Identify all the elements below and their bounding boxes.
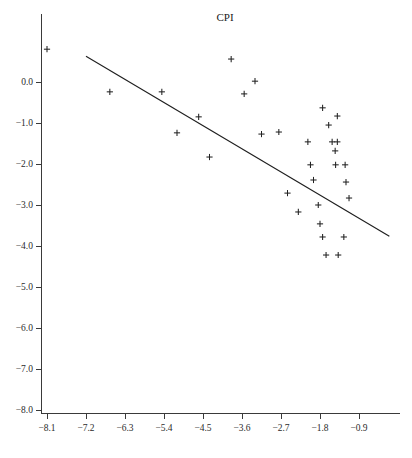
cpi-scatter-plot: CPI 0.0−1.0−2.0−3.0−4.0−5.0−6.0−7.0−8.0 … bbox=[0, 0, 412, 458]
x-tick-label: −0.9 bbox=[350, 423, 367, 433]
data-point-marker bbox=[228, 56, 234, 62]
data-point-marker bbox=[346, 195, 352, 201]
data-point-marker bbox=[206, 154, 212, 160]
page-title: CPI bbox=[216, 11, 233, 23]
data-point-marker bbox=[295, 209, 301, 215]
axes bbox=[41, 14, 400, 414]
x-tick-label: −4.5 bbox=[194, 423, 211, 433]
regression-line bbox=[86, 56, 389, 236]
data-point-marker bbox=[342, 162, 348, 168]
data-point-marker bbox=[334, 139, 340, 145]
data-point-marker bbox=[332, 148, 338, 154]
data-point-marker bbox=[241, 91, 247, 97]
y-tick-label: −8.0 bbox=[16, 405, 33, 415]
y-tick-label: −7.0 bbox=[16, 364, 33, 374]
data-point-marker bbox=[310, 177, 316, 183]
data-point-marker bbox=[44, 46, 50, 52]
data-point-marker bbox=[320, 234, 326, 240]
data-point-marker bbox=[317, 221, 323, 227]
data-point-marker bbox=[258, 131, 264, 137]
data-point-marker bbox=[315, 202, 321, 208]
x-tick-label: −5.4 bbox=[155, 423, 172, 433]
data-point-marker bbox=[326, 122, 332, 128]
x-tick-label: −7.2 bbox=[77, 423, 94, 433]
x-tick-label: −6.3 bbox=[116, 423, 133, 433]
data-point-marker bbox=[107, 89, 113, 95]
x-axis-ticks: −8.1−7.2−6.3−5.4−4.5−3.6−2.7−1.8−0.9 bbox=[38, 414, 367, 433]
data-point-marker bbox=[343, 179, 349, 185]
data-point-marker bbox=[196, 114, 202, 120]
data-point-marker bbox=[159, 89, 165, 95]
data-point-marker bbox=[335, 252, 341, 258]
x-tick-label: −8.1 bbox=[38, 423, 55, 433]
data-point-marker bbox=[334, 113, 340, 119]
data-point-marker bbox=[323, 252, 329, 258]
data-point-marker bbox=[276, 129, 282, 135]
y-tick-label: −4.0 bbox=[16, 241, 33, 251]
y-tick-label: −1.0 bbox=[16, 118, 33, 128]
y-tick-label: 0.0 bbox=[21, 77, 33, 87]
y-tick-label: −5.0 bbox=[16, 282, 33, 292]
chart-container: CPI 0.0−1.0−2.0−3.0−4.0−5.0−6.0−7.0−8.0 … bbox=[0, 0, 412, 458]
data-point-marker bbox=[284, 190, 290, 196]
x-tick-label: −2.7 bbox=[272, 423, 289, 433]
y-axis-ticks: 0.0−1.0−2.0−3.0−4.0−5.0−6.0−7.0−8.0 bbox=[16, 77, 41, 415]
data-point-marker bbox=[307, 162, 313, 168]
data-points bbox=[44, 46, 352, 258]
y-tick-label: −3.0 bbox=[16, 200, 33, 210]
y-tick-label: −2.0 bbox=[16, 159, 33, 169]
x-tick-label: −3.6 bbox=[233, 423, 250, 433]
data-point-marker bbox=[333, 162, 339, 168]
data-point-marker bbox=[341, 234, 347, 240]
y-tick-label: −6.0 bbox=[16, 323, 33, 333]
data-point-marker bbox=[174, 130, 180, 136]
data-point-marker bbox=[320, 105, 326, 111]
data-point-marker bbox=[305, 139, 311, 145]
plot-title-group: CPI bbox=[216, 11, 233, 23]
x-tick-label: −1.8 bbox=[311, 423, 328, 433]
regression-line-segment bbox=[86, 56, 389, 236]
data-point-marker bbox=[252, 78, 258, 84]
